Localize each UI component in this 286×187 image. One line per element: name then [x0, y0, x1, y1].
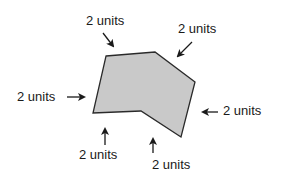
label-bottom-left: 2 units — [79, 148, 117, 162]
label-top-right: 2 units — [178, 22, 216, 36]
label-left: 2 units — [17, 90, 55, 104]
arrow-top-left — [103, 33, 113, 46]
diagram-canvas: 2 units 2 units 2 units 2 units 2 units … — [0, 0, 286, 187]
polygon-shape — [93, 52, 195, 137]
label-right: 2 units — [223, 104, 261, 118]
label-top-left: 2 units — [86, 14, 124, 28]
label-bottom-right: 2 units — [152, 158, 190, 172]
arrow-top-right — [178, 42, 192, 56]
